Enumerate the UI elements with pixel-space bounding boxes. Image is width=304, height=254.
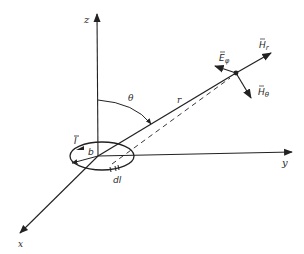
field-point: Hr Eφ Hθ <box>215 39 271 99</box>
x-axis: x <box>18 156 98 249</box>
y-axis: y <box>98 152 292 168</box>
h-theta-label: Hθ <box>258 87 270 99</box>
radius-vector: r <box>98 73 236 164</box>
dashed-projection-line <box>112 78 230 164</box>
h-r-vector <box>236 53 271 73</box>
h-r-label: Hr <box>259 40 270 52</box>
current-label: I <box>74 136 77 146</box>
dl-tick-1 <box>110 167 111 172</box>
radius-label: r <box>177 95 182 105</box>
h-theta-vector <box>236 73 251 98</box>
loop-radius-label: b <box>88 147 94 157</box>
dl-tick-3 <box>118 165 119 170</box>
z-axis: z <box>83 14 98 156</box>
dl-tick-2 <box>115 166 116 171</box>
current-loop-diagram: z y x I b dl r θ <box>0 0 304 254</box>
length-element-label: dl <box>113 175 122 185</box>
x-axis-label: x <box>18 239 23 249</box>
y-axis-label: y <box>281 157 288 168</box>
theta-label: θ <box>128 93 134 103</box>
z-axis-label: z <box>83 14 90 25</box>
e-phi-label: Eφ <box>219 53 230 65</box>
e-phi-vector <box>215 66 236 73</box>
current-loop: I b dl <box>70 136 134 185</box>
theta-angle: θ <box>98 93 151 124</box>
